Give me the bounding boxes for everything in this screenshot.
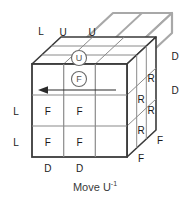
front-cell-label-2-1: F xyxy=(76,137,82,148)
right-cell-label-3: R xyxy=(137,125,144,136)
edge-label-bottom-right-0: F xyxy=(157,135,163,146)
edge-label-left-2: L xyxy=(13,137,19,148)
edge-label-right-1: D xyxy=(171,85,178,96)
right-cell-label-1: R xyxy=(147,73,154,84)
front-cell-label-2-0: F xyxy=(45,137,51,148)
top-circle-marker: U xyxy=(72,51,87,66)
right-cell-label-2: R xyxy=(147,105,154,116)
edge-label-left-1: L xyxy=(13,106,19,117)
right-cell-label-0: R xyxy=(137,94,144,105)
edge-label-bottom-right-1: F xyxy=(138,153,144,164)
front-cell-label-1-0: F xyxy=(45,106,51,117)
edge-label-bottom-1: D xyxy=(76,163,83,174)
caption: Move U-1 xyxy=(73,180,117,194)
cube-diagram-svg: F F F F U U R R R R L L L D D D D F F U xyxy=(0,0,196,199)
cube-move-diagram: F F F F U U R R R R L L L D D D D F F U xyxy=(0,0,196,199)
edge-label-bottom-0: D xyxy=(44,163,51,174)
top-cell-label-0-1: U xyxy=(88,27,95,38)
front-circle-marker: F xyxy=(72,72,87,87)
caption-exponent: -1 xyxy=(111,180,117,187)
edge-label-right-0: D xyxy=(171,51,178,62)
top-marker-text: U xyxy=(76,53,83,63)
front-cell-label-1-1: F xyxy=(76,106,82,117)
top-cell-label-0-0: U xyxy=(59,27,66,38)
front-marker-text: F xyxy=(76,74,82,84)
caption-main: Move U xyxy=(73,181,111,193)
edge-label-left-0: L xyxy=(38,26,44,37)
caption-group: Move U-1 xyxy=(73,180,117,194)
